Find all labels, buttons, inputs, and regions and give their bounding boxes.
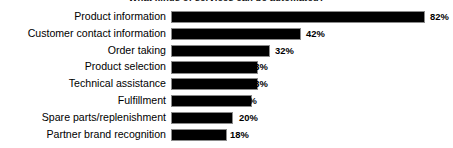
chart-plot-area: Product information 82% Customer contact… — [0, 9, 453, 148]
chart-row: Order taking 32% — [0, 43, 453, 60]
bar-track — [171, 112, 233, 124]
bar-order-taking — [171, 45, 270, 57]
chart-row: Product information 82% — [0, 9, 453, 26]
bar-track — [171, 45, 270, 57]
bar-track — [171, 28, 301, 40]
bar-track — [171, 129, 227, 141]
category-label-fulfillment: Fulfillment — [0, 93, 166, 110]
bar-chart: What kinds of services can be automated?… — [0, 0, 453, 148]
chart-row: Product selection 28% — [0, 59, 453, 76]
bar-spare-parts-replenishment — [171, 112, 233, 124]
chart-row: Spare parts/replenishment 20% — [0, 110, 453, 127]
value-label-technical-assistance: 28% — [249, 77, 268, 90]
category-label-technical-assistance: Technical assistance — [0, 76, 166, 93]
value-label-customer-contact-information: 42% — [306, 27, 325, 40]
value-label-order-taking: 32% — [275, 44, 294, 57]
value-label-fulfillment: 26% — [238, 94, 257, 107]
category-label-order-taking: Order taking — [0, 43, 166, 60]
bar-track — [171, 11, 425, 23]
chart-row: Technical assistance 28% — [0, 76, 453, 93]
category-label-partner-brand-recognition: Partner brand recognition — [0, 127, 166, 144]
chart-title: What kinds of services can be automated? — [0, 0, 453, 3]
category-label-customer-contact-information: Customer contact information — [0, 26, 166, 43]
bar-technical-assistance — [171, 78, 258, 90]
category-label-spare-parts-replenishment: Spare parts/replenishment — [0, 110, 166, 127]
category-label-product-information: Product information — [0, 9, 166, 26]
value-label-product-information: 82% — [430, 10, 449, 23]
bar-track — [171, 78, 258, 90]
bar-product-information — [171, 11, 425, 23]
value-label-partner-brand-recognition: 18% — [230, 128, 249, 141]
value-label-product-selection: 28% — [249, 60, 268, 73]
chart-row: Partner brand recognition 18% — [0, 127, 453, 144]
chart-row: Fulfillment 26% — [0, 93, 453, 110]
category-label-product-selection: Product selection — [0, 59, 166, 76]
bar-track — [171, 61, 258, 73]
bar-product-selection — [171, 61, 258, 73]
bar-partner-brand-recognition — [171, 129, 227, 141]
chart-row: Customer contact information 42% — [0, 26, 453, 43]
bar-customer-contact-information — [171, 28, 301, 40]
value-label-spare-parts-replenishment: 20% — [239, 111, 258, 124]
